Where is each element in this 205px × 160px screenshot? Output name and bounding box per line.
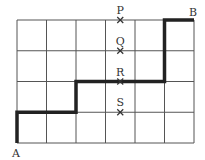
- marker-label: R: [116, 66, 125, 79]
- label-end-b: B: [189, 6, 197, 19]
- markers: PQRS: [116, 4, 125, 115]
- marker-label: S: [116, 96, 124, 109]
- grid-path-diagram: PQRS A B: [0, 0, 205, 160]
- label-start-a: A: [11, 147, 21, 160]
- marker-label: P: [117, 4, 125, 17]
- marker-label: Q: [116, 35, 125, 48]
